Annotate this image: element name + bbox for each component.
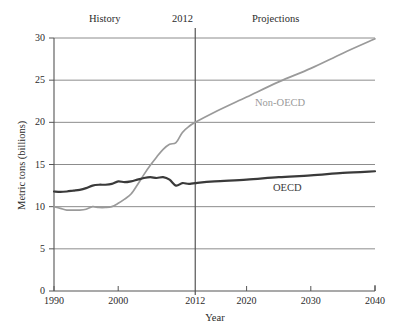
x-tick-label: 2012 <box>175 296 215 306</box>
y-tick-label: 25 <box>23 75 45 85</box>
x-axis-title: Year <box>185 313 245 324</box>
series-line-oecd <box>54 171 375 192</box>
y-tick-label: 5 <box>23 244 45 254</box>
x-tick-marks-group <box>54 286 375 291</box>
y-tick-label: 15 <box>23 160 45 170</box>
series-lines-group <box>54 39 375 210</box>
x-tick-label: 2030 <box>291 296 331 306</box>
gridlines-group <box>54 38 375 249</box>
y-tick-marks-group <box>49 38 54 291</box>
x-tick-label: 2000 <box>98 296 138 306</box>
chart-plot-area <box>0 0 394 335</box>
y-tick-label: 20 <box>23 117 45 127</box>
x-tick-label: 1990 <box>34 296 74 306</box>
series-label-non-oecd: Non-OECD <box>255 98 305 109</box>
chart-figure: History 2012 Projections Non-OECD OECD M… <box>0 0 394 335</box>
y-tick-label: 0 <box>23 286 45 296</box>
y-tick-label: 10 <box>23 202 45 212</box>
annotation-divider-year: 2012 <box>172 14 193 25</box>
annotation-projections: Projections <box>252 14 299 25</box>
x-tick-label: 2040 <box>355 296 394 306</box>
series-label-oecd: OECD <box>273 183 302 194</box>
x-tick-label: 2020 <box>227 296 267 306</box>
annotation-history: History <box>89 14 121 25</box>
y-tick-label: 30 <box>23 33 45 43</box>
